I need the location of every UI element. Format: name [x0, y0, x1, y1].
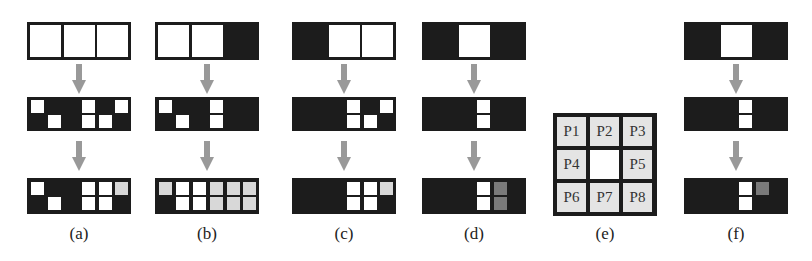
white-slot	[329, 25, 360, 57]
light-gray-cell	[115, 182, 128, 195]
white-cell	[115, 100, 128, 113]
center-pixel	[590, 150, 619, 179]
white-cell	[48, 115, 61, 128]
down-arrow-icon	[728, 64, 744, 94]
white-cell	[82, 182, 95, 195]
light-gray-cell	[243, 182, 256, 195]
neighbor-p1: P1	[557, 117, 586, 146]
white-cell	[380, 100, 393, 113]
neighborhood-grid: P1P2P3P4P5P6P7P8	[553, 113, 657, 216]
down-arrow-icon	[336, 64, 352, 94]
panel-e: P1P2P3P4P5P6P7P8(e)	[553, 0, 657, 261]
white-cell	[99, 115, 112, 128]
output-row	[155, 178, 259, 214]
white-cell	[176, 182, 189, 195]
neighbor-p4: P4	[557, 150, 586, 179]
down-arrow-icon	[199, 64, 215, 94]
white-cell	[99, 197, 112, 210]
white-cell	[159, 100, 172, 113]
light-gray-cell	[210, 182, 223, 195]
white-cell	[347, 197, 360, 210]
panel-label: (f)	[684, 224, 788, 244]
light-gray-cell	[380, 182, 393, 195]
white-cell	[477, 115, 490, 128]
down-arrow-icon	[466, 141, 482, 171]
input-block	[155, 22, 259, 60]
light-gray-cell	[227, 197, 240, 210]
output-row	[27, 178, 131, 214]
down-arrow-icon	[199, 141, 215, 171]
white-cell	[48, 197, 61, 210]
neighbor-p5: P5	[623, 150, 652, 179]
panel-c: (c)	[292, 0, 396, 261]
white-cell	[210, 100, 223, 113]
white-cell	[31, 100, 44, 113]
white-cell	[477, 197, 490, 210]
white-cell	[31, 182, 44, 195]
subblock-row	[27, 97, 131, 131]
white-slot	[64, 25, 95, 57]
white-slot	[459, 25, 490, 57]
down-arrow-icon	[728, 141, 744, 171]
subblock-row	[684, 97, 788, 131]
white-cell	[82, 100, 95, 113]
panel-label: (c)	[292, 224, 396, 244]
white-cell	[477, 100, 490, 113]
white-cell	[176, 115, 189, 128]
input-block	[422, 22, 526, 60]
subblock-row	[292, 97, 396, 131]
down-arrow-icon	[466, 64, 482, 94]
panel-a: (a)	[27, 0, 131, 261]
white-cell	[364, 182, 377, 195]
down-arrow-icon	[336, 141, 352, 171]
white-cell	[193, 182, 206, 195]
neighbor-p6: P6	[557, 183, 586, 212]
white-cell	[347, 115, 360, 128]
output-row	[684, 178, 788, 214]
down-arrow-icon	[71, 141, 87, 171]
light-gray-cell	[227, 182, 240, 195]
white-slot	[192, 25, 223, 57]
white-cell	[739, 100, 752, 113]
output-row	[292, 178, 396, 214]
input-block	[684, 22, 788, 60]
panel-label: (e)	[553, 224, 657, 244]
neighbor-p2: P2	[590, 117, 619, 146]
dark-gray-cell	[494, 197, 507, 210]
panel-b: (b)	[155, 0, 259, 261]
white-slot	[97, 25, 128, 57]
white-slot	[158, 25, 189, 57]
white-cell	[739, 182, 752, 195]
neighbor-p3: P3	[623, 117, 652, 146]
white-cell	[82, 115, 95, 128]
down-arrow-icon	[71, 64, 87, 94]
white-slot	[721, 25, 752, 57]
panel-label: (d)	[422, 224, 526, 244]
white-cell	[210, 115, 223, 128]
panel-label: (a)	[27, 224, 131, 244]
dark-gray-cell	[756, 182, 769, 195]
white-cell	[477, 182, 490, 195]
light-gray-cell	[210, 197, 223, 210]
white-cell	[347, 182, 360, 195]
panel-f: (f)	[684, 0, 788, 261]
panel-label: (b)	[155, 224, 259, 244]
white-cell	[99, 182, 112, 195]
white-cell	[176, 197, 189, 210]
subblock-row	[422, 97, 526, 131]
white-cell	[739, 197, 752, 210]
white-cell	[364, 115, 377, 128]
white-slot	[362, 25, 393, 57]
white-cell	[82, 197, 95, 210]
white-cell	[739, 115, 752, 128]
neighbor-p7: P7	[590, 183, 619, 212]
white-cell	[364, 197, 377, 210]
neighbor-p8: P8	[623, 183, 652, 212]
white-cell	[347, 100, 360, 113]
light-gray-cell	[243, 197, 256, 210]
dark-gray-cell	[494, 182, 507, 195]
subblock-row	[155, 97, 259, 131]
output-row	[422, 178, 526, 214]
panel-d: (d)	[422, 0, 526, 261]
input-block	[292, 22, 396, 60]
